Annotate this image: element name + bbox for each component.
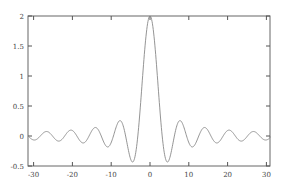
y-tick-label: 1.5: [13, 43, 24, 51]
x-tick-label: 20: [223, 171, 232, 179]
y-tick-label: 0: [20, 133, 24, 141]
y-tick-label: 2: [20, 13, 24, 21]
y-tick-label: 0.5: [13, 103, 24, 111]
data-series-line: [28, 16, 270, 162]
plot-frame: [28, 16, 270, 166]
x-tick-label: 0: [148, 171, 152, 179]
y-tick-label: -0.5: [11, 163, 25, 171]
x-axis-ticks: -30-20-100102030: [28, 16, 271, 179]
x-tick-label: 30: [262, 171, 271, 179]
x-tick-label: -10: [106, 171, 117, 179]
line-chart: -30-20-100102030 -0.500.511.52: [0, 0, 282, 188]
x-tick-label: -30: [28, 171, 39, 179]
y-axis-ticks: -0.500.511.52: [11, 13, 271, 171]
y-tick-label: 1: [20, 73, 24, 81]
x-tick-label: -20: [67, 171, 78, 179]
x-tick-label: 10: [184, 171, 193, 179]
